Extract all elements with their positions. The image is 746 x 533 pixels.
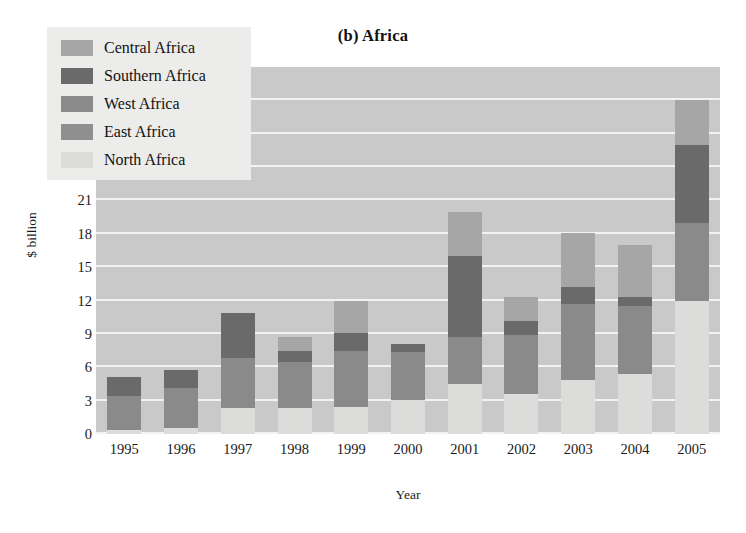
bar-segment[interactable]: [618, 306, 652, 374]
bar-segment[interactable]: [107, 377, 141, 396]
bar-group[interactable]: [675, 67, 709, 434]
bar-segment[interactable]: [221, 358, 255, 408]
legend-label: East Africa: [104, 124, 176, 140]
legend-swatch-icon: [61, 124, 93, 140]
x-axis-title: Year: [96, 487, 720, 503]
legend-item[interactable]: Southern Africa: [47, 62, 251, 90]
bar-segment[interactable]: [618, 245, 652, 297]
x-tick-label: 1997: [209, 441, 266, 458]
bar-segment[interactable]: [504, 321, 538, 335]
bar-segment[interactable]: [334, 301, 368, 333]
bar-segment[interactable]: [675, 223, 709, 301]
bar-segment[interactable]: [107, 430, 141, 434]
y-tick-label: 3: [52, 394, 92, 401]
legend-item[interactable]: West Africa: [47, 90, 251, 118]
bar-group[interactable]: [448, 67, 482, 434]
y-tick-label: 18: [52, 227, 92, 234]
legend-item[interactable]: Central Africa: [47, 34, 251, 62]
bar-group[interactable]: [504, 67, 538, 434]
bar-group[interactable]: [391, 67, 425, 434]
x-tick-label: 1995: [96, 441, 153, 458]
legend-label: Central Africa: [104, 40, 195, 56]
x-tick-label: 1999: [323, 441, 380, 458]
bar-segment[interactable]: [164, 370, 198, 389]
x-tick-label: 2004: [607, 441, 664, 458]
x-tick-label: 2005: [663, 441, 720, 458]
bar-segment[interactable]: [618, 297, 652, 306]
x-tick-label: 2002: [493, 441, 550, 458]
legend-swatch-icon: [61, 152, 93, 168]
figure-africa-fdi-chart: (b) Africa $ billion 0369121518212427303…: [0, 0, 746, 533]
bar-segment[interactable]: [448, 337, 482, 384]
bar-segment[interactable]: [391, 344, 425, 352]
bar-segment[interactable]: [334, 333, 368, 351]
x-tick-label: 2001: [436, 441, 493, 458]
bar-segment[interactable]: [561, 380, 595, 434]
bar-segment[interactable]: [391, 400, 425, 434]
x-tick-label: 1998: [266, 441, 323, 458]
bar-segment[interactable]: [221, 408, 255, 434]
bar-segment[interactable]: [278, 362, 312, 409]
bar-segment[interactable]: [561, 233, 595, 287]
bar-segment[interactable]: [504, 394, 538, 434]
bar-segment[interactable]: [448, 384, 482, 434]
bar-segment[interactable]: [221, 313, 255, 359]
legend-label: West Africa: [104, 96, 180, 112]
bar-group[interactable]: [278, 67, 312, 434]
bar-segment[interactable]: [504, 335, 538, 394]
bar-group[interactable]: [334, 67, 368, 434]
legend-item[interactable]: North Africa: [47, 146, 251, 174]
bar-segment[interactable]: [278, 337, 312, 350]
legend-item[interactable]: East Africa: [47, 118, 251, 146]
bar-segment[interactable]: [448, 212, 482, 256]
legend-label: Southern Africa: [104, 68, 206, 84]
bar-segment[interactable]: [334, 407, 368, 434]
bar-segment[interactable]: [107, 396, 141, 429]
bar-segment[interactable]: [164, 428, 198, 434]
x-axis-tick-labels: 1995199619971998199920002001200220032004…: [96, 441, 720, 465]
bar-segment[interactable]: [164, 388, 198, 428]
legend-label: North Africa: [104, 152, 185, 168]
y-axis-title: $ billion: [24, 180, 40, 290]
bar-segment[interactable]: [278, 351, 312, 362]
x-tick-label: 2000: [380, 441, 437, 458]
bar-segment[interactable]: [675, 145, 709, 223]
bar-segment[interactable]: [448, 256, 482, 337]
y-tick-label: 15: [52, 260, 92, 267]
x-tick-label: 2003: [550, 441, 607, 458]
y-tick-label: 0: [52, 427, 92, 434]
bar-segment[interactable]: [278, 408, 312, 434]
bar-segment[interactable]: [391, 352, 425, 400]
chart-legend: Central AfricaSouthern AfricaWest Africa…: [47, 27, 251, 180]
legend-swatch-icon: [61, 40, 93, 56]
y-tick-label: 21: [52, 193, 92, 200]
bar-group[interactable]: [561, 67, 595, 434]
bar-segment[interactable]: [675, 100, 709, 144]
bar-segment[interactable]: [561, 304, 595, 380]
legend-swatch-icon: [61, 96, 93, 112]
bar-segment[interactable]: [334, 351, 368, 408]
y-tick-label: 6: [52, 360, 92, 367]
bar-segment[interactable]: [561, 287, 595, 304]
bar-segment[interactable]: [675, 301, 709, 434]
bar-group[interactable]: [618, 67, 652, 434]
y-tick-label: 12: [52, 294, 92, 301]
y-tick-label: 9: [52, 327, 92, 334]
x-tick-label: 1996: [153, 441, 210, 458]
bar-segment[interactable]: [618, 374, 652, 434]
bar-segment[interactable]: [504, 297, 538, 320]
legend-swatch-icon: [61, 68, 93, 84]
